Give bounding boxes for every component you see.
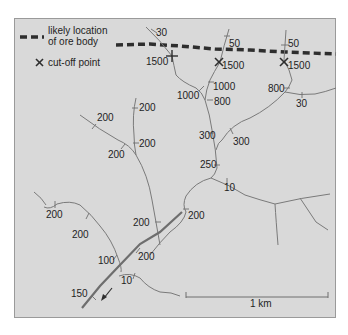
sample-label: 1500 xyxy=(146,56,169,67)
ore-body-line xyxy=(116,44,336,54)
sample-label: 1000 xyxy=(177,90,200,101)
sample-label: 200 xyxy=(188,210,205,221)
sample-label: 1500 xyxy=(288,60,311,71)
flow-direction-arrow-icon xyxy=(101,288,112,301)
sample-label: 50 xyxy=(288,38,300,49)
sample-label: 200 xyxy=(46,209,63,220)
sample-label: 30 xyxy=(296,98,308,109)
legend-cutoff-label: cut-off point xyxy=(48,57,100,68)
sample-label: 1000 xyxy=(213,81,236,92)
sample-label: 30 xyxy=(156,27,168,38)
sample-label: 300 xyxy=(199,130,216,141)
sample-label: 10 xyxy=(121,275,133,286)
sample-label: 200 xyxy=(139,102,156,113)
map-drawing: 30 1500 50 1500 50 1500 1000 1000 800 80… xyxy=(0,0,348,335)
sample-label: 800 xyxy=(214,96,231,107)
sample-label: 250 xyxy=(200,159,217,170)
sample-label: 200 xyxy=(97,112,114,123)
sample-ticks xyxy=(55,29,302,300)
sample-label: 100 xyxy=(98,255,115,266)
sample-label: 200 xyxy=(72,229,89,240)
sample-label: 150 xyxy=(71,288,88,299)
river-far-west-spur xyxy=(34,192,46,205)
sample-label: 300 xyxy=(233,136,250,147)
scale-bar-label: 1 km xyxy=(250,298,272,309)
river-east-branch xyxy=(285,88,336,95)
sample-label: 200 xyxy=(133,217,150,228)
legend-ore-body-label: likely location of ore body xyxy=(48,25,107,47)
legend-cutoff-icon xyxy=(36,59,43,66)
sample-label: 200 xyxy=(139,138,156,149)
sample-label: 50 xyxy=(229,38,241,49)
river-north-headwater xyxy=(205,29,229,130)
sample-label: 800 xyxy=(268,83,285,94)
river-se-fork-east xyxy=(300,198,328,230)
sample-label: 200 xyxy=(138,251,155,262)
river-central-join xyxy=(216,140,222,150)
river-se-fork-south xyxy=(275,204,278,245)
sample-label: 200 xyxy=(108,149,125,160)
sample-label: 1500 xyxy=(222,60,245,71)
main-river xyxy=(82,212,182,308)
sample-label: 10 xyxy=(224,182,236,193)
